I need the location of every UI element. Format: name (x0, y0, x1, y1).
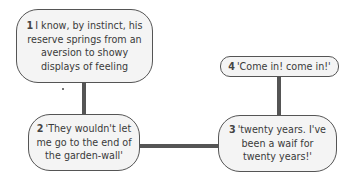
node-1-content: 1I know, by instinct, his reserve spring… (23, 19, 146, 73)
speck-mark (62, 88, 64, 90)
node-2-text: 'They wouldn't let me go to the end of t… (36, 123, 131, 161)
node-4-content: 4'Come in! come in!' (228, 60, 331, 74)
node-2-content: 2'They wouldn't let me go to the end of … (35, 122, 133, 163)
node-3: 3'twenty years. I've been a waif for twe… (218, 115, 337, 172)
node-2-number: 2 (37, 123, 44, 134)
node-4: 4'Come in! come in!' (220, 56, 339, 77)
node-1-text: I know, by instinct, his reserve springs… (27, 20, 142, 72)
connector-4-3 (277, 76, 281, 116)
node-3-number: 3 (229, 124, 236, 135)
node-3-content: 3'twenty years. I've been a waif for twe… (225, 123, 330, 164)
node-1-number: 1 (27, 20, 34, 31)
node-4-number: 4 (228, 61, 235, 72)
connector-2-3 (139, 144, 219, 148)
node-4-text: 'Come in! come in!' (237, 61, 331, 72)
node-2: 2'They wouldn't let me go to the end of … (28, 114, 140, 171)
node-3-text: 'twenty years. I've been a waif for twen… (238, 124, 326, 162)
connector-1-2 (82, 82, 86, 115)
node-1: 1I know, by instinct, his reserve spring… (16, 9, 153, 83)
